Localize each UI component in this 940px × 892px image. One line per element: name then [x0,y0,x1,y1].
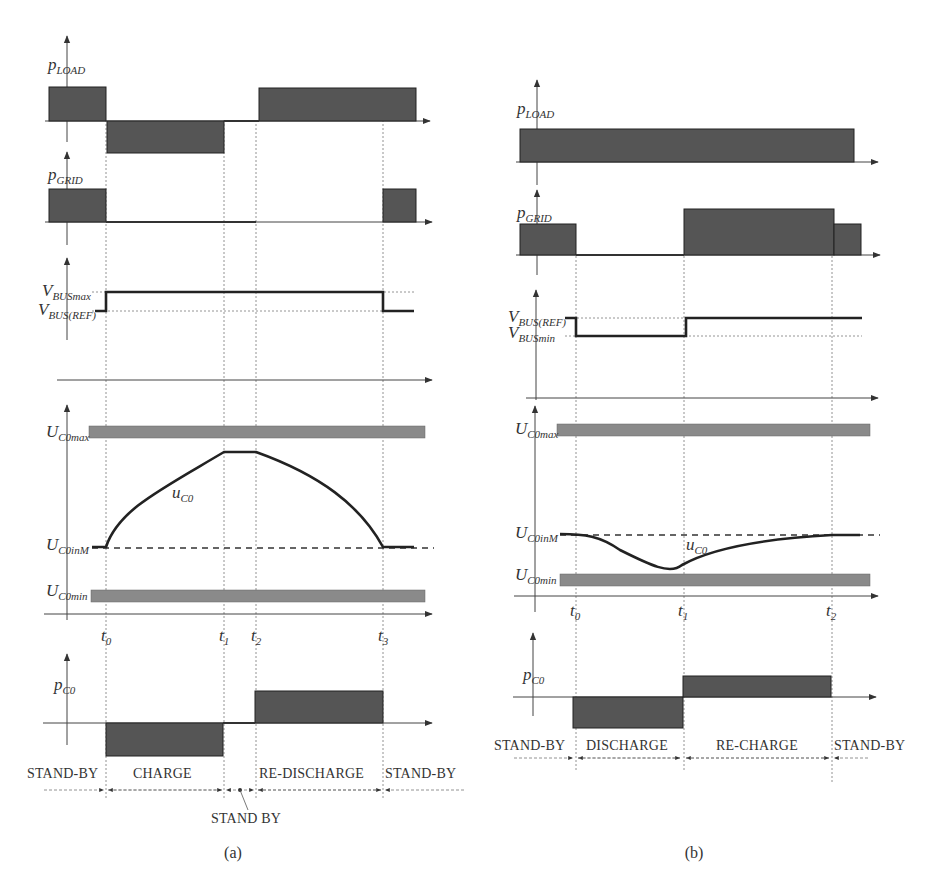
panel-b-v-bus-plot: VBUS(REF) VBUSmin [508,290,878,400]
t1-label-b: t1 [678,601,688,622]
u-c0-max-label-b: UC0max [515,419,559,440]
u-c0-label-b: uC0 [686,535,708,556]
p-grid-label: pGRID [47,165,83,186]
phase-b-re-charge: RE-CHARGE [716,738,798,753]
p-c0-label: pC0 [53,675,76,696]
panel-a-v-bus-plot: VBUSmax VBUS(REF) [38,258,432,380]
panel-a-u-c0-plot: UC0max uC0 UC0inM UC0min [44,405,434,620]
phase-b-standby-2: STAND-BY [834,738,905,753]
u-c0-max-label: UC0max [46,422,90,443]
panel-b: pLOAD pGRID VBUS(REF) VBUSmin [494,80,905,862]
p-load-label-b: pLOAD [516,99,554,120]
panel-a-p-grid-plot: pGRID [45,152,432,245]
u-c0-min-label-b: UC0min [515,565,557,586]
panel-b-time-marks: t0 t1 t2 [570,601,837,622]
u-c0-label: uC0 [172,483,194,504]
panel-a-time-marks: t0 t1 t2 t3 [101,626,389,647]
panel-b-u-c0-plot: UC0max uC0 UC0inM UC0min [514,406,880,612]
panel-a: pLOAD pGRID VBUSmax VBUS(REF) [27,36,464,862]
u-c0-inm-label-b: UC0inM [515,523,559,544]
panel-b-p-load-plot: pLOAD [516,80,878,185]
phase-a-re-discharge: RE-DISCHARGE [259,766,364,781]
phase-a-charge: CHARGE [133,766,192,781]
panel-a-p-c0-plot: pC0 [43,654,432,756]
panel-b-phase-labels: STAND-BY DISCHARGE RE-CHARGE STAND-BY [494,738,905,758]
caption-a: (a) [224,844,242,862]
phase-b-discharge: DISCHARGE [586,738,668,753]
phase-a-standby-1: STAND-BY [27,766,98,781]
phase-a-standby-short: STAND BY [211,811,281,826]
phase-b-standby-1: STAND-BY [494,738,565,753]
panel-b-p-c0-plot: pC0 [513,633,876,728]
p-load-label: pLOAD [47,55,85,76]
phase-a-standby-2: STAND-BY [385,766,456,781]
t0-label-b: t0 [570,601,581,622]
v-bus-max-label: VBUSmax [42,281,91,302]
panel-b-p-grid-plot: pGRID [516,190,880,275]
u-c0-inm-label: UC0inM [46,535,90,556]
panel-a-phase-labels: STAND-BY CHARGE RE-DISCHARGE STAND-BY ST… [27,766,464,826]
t2-label-b: t2 [826,601,837,622]
panel-a-p-load-plot: pLOAD [45,36,430,153]
p-grid-label-b: pGRID [516,203,552,224]
caption-b: (b) [685,844,704,862]
